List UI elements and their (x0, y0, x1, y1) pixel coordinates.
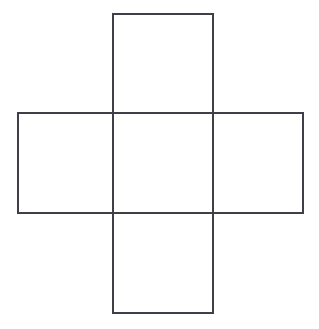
figure-canvas (0, 0, 319, 329)
net-cell-bottom (113, 213, 213, 313)
net-cell-center (113, 113, 213, 213)
net-cell-left (18, 113, 113, 213)
net-cell-right (213, 113, 303, 213)
net-cells-group (18, 14, 303, 313)
cross-net-figure (0, 0, 319, 329)
net-cell-top (113, 14, 213, 113)
